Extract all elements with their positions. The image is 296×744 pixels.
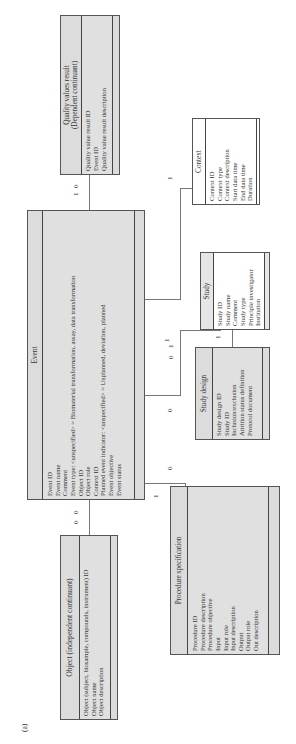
entity-footer [263, 348, 269, 439]
attribute: Object description [97, 539, 105, 716]
cardinality-label: 1 [166, 177, 174, 181]
connector-object-event [89, 500, 90, 535]
cardinality-label: 0 [72, 185, 80, 189]
entity-footer [269, 487, 279, 654]
attribute: Attrition status definition [238, 351, 246, 436]
connector-event-context-h [180, 188, 181, 300]
attribute: Event status [115, 214, 123, 496]
connector-event-quality [89, 175, 90, 210]
entity-title: Event [28, 211, 43, 499]
attribute: Procedure ID [191, 490, 199, 651]
attribute: Output role [244, 490, 252, 651]
entity-footer [257, 119, 259, 204]
attribute: Protocol document [246, 351, 254, 436]
er-diagram-canvas: Quality values result (Dependent continu… [0, 0, 296, 744]
connector-event-study-v1 [145, 395, 180, 396]
cardinality-label: 0 [167, 356, 175, 360]
attribute: Start data time [231, 122, 239, 201]
attribute: Event name [54, 214, 62, 496]
attribute: Quality value result description [100, 19, 108, 171]
entity-title: Study design [196, 348, 213, 439]
attribute: Study type [239, 256, 247, 326]
attribute-list: Study ID Study name Comment Study type P… [214, 253, 265, 329]
attribute: Object ID [77, 214, 85, 496]
entity-title: Procedure specification [171, 487, 188, 654]
connector-event-study-h [180, 330, 181, 396]
attribute: Event type: <unspecified> = Biomaterial … [69, 214, 77, 496]
title-line-2: (Dependent continuant) [71, 18, 79, 172]
connector-event-context-v2 [180, 188, 192, 189]
attribute: Object name [90, 539, 98, 716]
entity-footer [113, 16, 119, 174]
attribute-list: Object (subject, biosample, compounds, i… [80, 536, 111, 719]
entity-footer [135, 211, 144, 499]
entity-quality-values-result[interactable]: Quality values result (Dependent continu… [60, 15, 120, 175]
figure-label: (a) [20, 724, 29, 732]
cardinality-label: 1 [152, 495, 160, 499]
cardinality-label: 1 [167, 345, 175, 349]
attribute: Event ID [46, 214, 54, 496]
attribute: Principle investigator [247, 256, 255, 326]
cardinality-label: 0 [166, 467, 174, 471]
attribute: Event ID [92, 19, 100, 171]
attribute: Procedure objective [206, 490, 214, 651]
entity-title: Study [201, 253, 214, 329]
cardinality-label: 1 [214, 336, 222, 340]
attribute: Input [214, 490, 222, 651]
attribute: Study ID [223, 351, 231, 436]
attribute: Study name [224, 256, 232, 326]
entity-title: Context [193, 119, 206, 204]
connector-study-studydesign [232, 330, 233, 347]
attribute-list: Procedure ID Procedure description Proce… [188, 487, 269, 654]
attribute: Input role [222, 490, 230, 651]
attribute: Context ID [92, 214, 100, 496]
entity-context[interactable]: Context Context ID Context type Context … [192, 118, 260, 205]
attribute: Object role [84, 214, 92, 496]
attribute: Comment [61, 214, 69, 496]
attribute: Institution [254, 256, 262, 326]
attribute: Comment [231, 256, 239, 326]
cardinality-label: 1 [72, 193, 80, 197]
entity-title: Quality values result (Dependent continu… [61, 16, 82, 174]
attribute-list: Study design ID Study ID Inclusion/exclu… [213, 348, 263, 439]
attribute: Context ID [208, 122, 216, 201]
attribute: End data time [239, 122, 247, 201]
title-line-1: Quality values result [63, 18, 71, 172]
attribute: Planned event indicator: <unspecified> =… [99, 214, 107, 496]
connector-event-context-v1 [145, 299, 180, 300]
attribute: Context type [216, 122, 224, 201]
attribute-list: Context ID Context type Context descript… [206, 119, 257, 204]
attribute: Study ID [216, 256, 224, 326]
cardinality-label: 1 [163, 339, 171, 343]
connector-event-procedure-v [145, 483, 185, 484]
cardinality-label: 0 [166, 409, 174, 413]
attribute-list: Event ID Event name Comment Event type: … [43, 211, 135, 499]
attribute: Duration [246, 122, 254, 201]
attribute: Out description [252, 490, 260, 651]
attribute: Event objective [107, 214, 115, 496]
attribute: Inclusion/exclusion [230, 351, 238, 436]
entity-procedure-specification[interactable]: Procedure specification Procedure ID Pro… [170, 486, 280, 655]
entity-object[interactable]: Object (independent continuant) Object (… [60, 535, 118, 720]
entity-title: Object (independent continuant) [61, 536, 80, 719]
cardinality-label: 0 [72, 511, 80, 515]
attribute: Procedure description [199, 490, 207, 651]
attribute: Quality value result ID [84, 19, 92, 171]
entity-study-design[interactable]: Study design Study design ID Study ID In… [195, 347, 270, 440]
connector-event-study-v2 [180, 330, 220, 331]
entity-footer [265, 253, 269, 329]
cardinality-label: 0 [72, 521, 80, 525]
entity-study[interactable]: Study Study ID Study name Comment Study … [200, 252, 270, 330]
entity-event[interactable]: Event Event ID Event name Comment Event … [27, 210, 145, 500]
entity-footer [111, 536, 117, 719]
attribute: Object (subject, biosample, compounds, i… [82, 539, 90, 716]
attribute: Output [237, 490, 245, 651]
attribute-list: Quality value result ID Event ID Quality… [82, 16, 113, 174]
attribute: Input description [229, 490, 237, 651]
attribute: Context description [223, 122, 231, 201]
attribute: Study design ID [215, 351, 223, 436]
